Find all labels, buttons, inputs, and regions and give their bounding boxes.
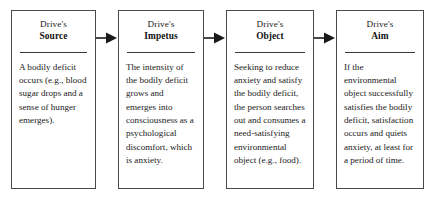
arrow-right-icon-object-to-aim <box>314 31 336 45</box>
flow-node-object-header-title: Object <box>227 30 313 42</box>
flow-node-aim-body: If the environmental object successfully… <box>337 53 423 168</box>
flow-node-impetus-header-prefix: Drive's <box>119 18 203 30</box>
flow-node-object-header-prefix: Drive's <box>227 18 313 30</box>
flow-node-impetus-body: The intensity of the bodily deficit grow… <box>119 53 203 168</box>
flow-node-source-body: A bodily deficit occurs (e.g., blood sug… <box>12 53 95 128</box>
flow-node-impetus-header: Drive's Impetus <box>119 11 203 43</box>
flow-node-aim-header-prefix: Drive's <box>337 18 423 30</box>
flow-node-aim[interactable]: Drive's Aim If the environmental object … <box>336 10 424 189</box>
flow-node-source-header: Drive's Source <box>12 11 95 43</box>
flow-node-source-header-prefix: Drive's <box>12 18 95 30</box>
flow-node-object-body: Seeking to reduce anxiety and satisfy th… <box>227 53 313 168</box>
flow-node-object[interactable]: Drive's Object Seeking to reduce anxiety… <box>226 10 314 189</box>
arrow-right-icon-impetus-to-object <box>204 31 226 45</box>
flow-node-aim-header: Drive's Aim <box>337 11 423 43</box>
drive-flowchart: Drive's Source A bodily deficit occurs (… <box>0 0 437 202</box>
flow-node-impetus[interactable]: Drive's Impetus The intensity of the bod… <box>118 10 204 189</box>
arrow-right-icon-source-to-impetus <box>96 31 118 45</box>
flow-node-source[interactable]: Drive's Source A bodily deficit occurs (… <box>11 10 96 189</box>
flow-node-source-header-title: Source <box>12 30 95 42</box>
flow-node-object-header: Drive's Object <box>227 11 313 43</box>
flow-node-impetus-header-title: Impetus <box>119 30 203 42</box>
flow-node-aim-header-title: Aim <box>337 30 423 42</box>
